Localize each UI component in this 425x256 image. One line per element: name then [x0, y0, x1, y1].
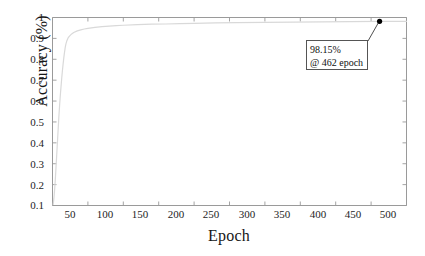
y-tick-label: 1 [4, 11, 44, 23]
x-tick-label: 100 [85, 208, 125, 220]
annotation-callout-box: 98.15% @ 462 epoch [306, 40, 368, 70]
y-tick-label: 0.6 [4, 95, 44, 107]
x-tick-label: 300 [227, 208, 267, 220]
x-tick-label: 150 [120, 208, 160, 220]
x-tick-label: 350 [262, 208, 302, 220]
y-tick-label: 0.9 [4, 32, 44, 44]
x-tick-label: 200 [156, 208, 196, 220]
x-tick-label: 50 [50, 208, 90, 220]
y-tick-label: 0.7 [4, 74, 44, 86]
peak-data-point-marker [377, 19, 382, 24]
x-tick-label: 250 [191, 208, 231, 220]
x-axis-label: Epoch [52, 227, 406, 245]
x-tick-label: 400 [298, 208, 338, 220]
x-tick-label: 450 [333, 208, 373, 220]
annotation-accuracy-value: 98.15% [310, 43, 367, 56]
annotation-epoch-value: @ 462 epoch [310, 56, 367, 69]
accuracy-vs-epoch-chart: Accuracy (%) Epoch 1 0.9 0.8 0.7 0.6 0.5… [0, 0, 425, 256]
y-tick-label: 0.2 [4, 179, 44, 191]
y-tick-label: 0.5 [4, 116, 44, 128]
y-tick-label: 0.4 [4, 137, 44, 149]
y-tick-label: 0.8 [4, 53, 44, 65]
x-tick-label: 500 [368, 208, 408, 220]
annotation-leader-line [368, 22, 379, 41]
y-tick-label: 0.1 [4, 199, 44, 211]
y-tick-label: 0.3 [4, 158, 44, 170]
